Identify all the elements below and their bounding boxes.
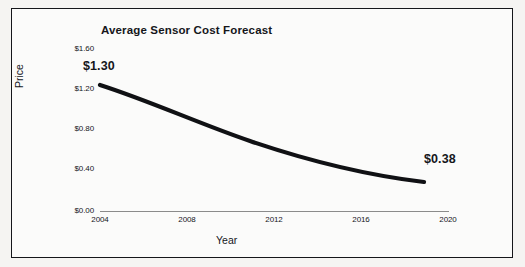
data-label-start: $1.30	[83, 59, 115, 73]
y-axis-tick-label: $1.20	[50, 84, 94, 93]
chart-figure: Average Sensor Cost Forecast Price Year …	[0, 0, 525, 267]
chart-title: Average Sensor Cost Forecast	[101, 24, 272, 36]
y-axis-tick-label: $0.80	[50, 124, 94, 133]
forecast-line-series	[100, 85, 424, 182]
x-axis-tick-label: 2012	[251, 215, 297, 224]
data-label-end: $0.38	[424, 152, 456, 166]
y-axis-tick-label: $0.00	[50, 206, 94, 215]
x-axis-tick-label: 2004	[77, 215, 123, 224]
x-axis-tick-label: 2008	[164, 215, 210, 224]
x-axis-title: Year	[216, 234, 237, 246]
y-axis-title: Price	[13, 46, 25, 106]
line-chart-plot	[0, 0, 525, 267]
x-axis-tick-label: 2020	[425, 215, 471, 224]
y-axis-tick-label: $1.60	[50, 44, 94, 53]
x-axis-tick-label: 2016	[338, 215, 384, 224]
y-axis-tick-label: $0.40	[50, 164, 94, 173]
